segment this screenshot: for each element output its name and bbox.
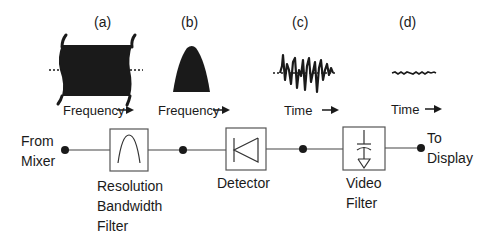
panel-c-waveform	[273, 55, 336, 92]
panel-a-waveform	[49, 35, 143, 105]
panel-d-waveform	[392, 72, 436, 74]
detector-label: Detector	[217, 173, 270, 193]
panel-b-label: (b)	[181, 14, 198, 30]
panel-d-axis-label: Time	[391, 102, 419, 117]
panel-b-waveform	[173, 46, 210, 92]
panel-a-axis-label: Frequency	[63, 103, 124, 118]
detector-block	[226, 128, 266, 170]
panel-a-label: (a)	[94, 14, 111, 30]
panel-c-axis-label: Time	[284, 103, 312, 118]
input-label: From Mixer	[21, 131, 55, 171]
panel-d-label: (d)	[399, 14, 416, 30]
panel-c-label: (c)	[292, 14, 308, 30]
rbw-filter-block	[110, 129, 148, 171]
video-filter-block	[343, 127, 385, 170]
video-filter-label: Video Filter	[346, 173, 382, 213]
panel-b-axis-label: Frequency	[158, 103, 219, 118]
output-label: To Display	[427, 128, 473, 168]
rbw-filter-label: Resolution Bandwidth Filter	[97, 176, 163, 236]
